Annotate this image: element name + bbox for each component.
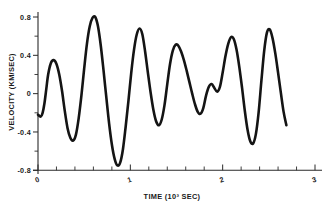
axes-group [33, 12, 322, 174]
y-tick-label: 0.4 [20, 51, 31, 60]
velocity-trace [38, 16, 286, 165]
y-axis-tick-labels: 0.80.40-0.4-0.8 [17, 13, 31, 175]
y-tick-label: -0.8 [17, 166, 31, 175]
y-axis-title: VELOCITY (KM/SEC) [7, 53, 16, 131]
chart-canvas: 0.80.40-0.4-0.8 0123 VELOCITY (KM/SEC) T… [0, 0, 331, 204]
x-tick-label: 2 [218, 175, 225, 185]
x-tick-label: 0 [34, 175, 41, 185]
y-tick-label: 0 [27, 89, 31, 98]
y-axis-major-ticks [33, 17, 38, 170]
x-axis-title: TIME (10³ SEC) [144, 192, 201, 201]
velocity-time-figure: 0.80.40-0.4-0.8 0123 VELOCITY (KM/SEC) T… [0, 0, 331, 204]
x-tick-label: 3 [311, 175, 318, 185]
x-axis-tick-labels: 0123 [34, 175, 318, 185]
x-tick-label: 1 [126, 175, 133, 185]
y-tick-label: -0.4 [17, 128, 31, 137]
x-axis-major-ticks [38, 165, 315, 171]
y-tick-label: 0.8 [20, 13, 31, 22]
x-axis-minor-ticks [56, 167, 296, 171]
